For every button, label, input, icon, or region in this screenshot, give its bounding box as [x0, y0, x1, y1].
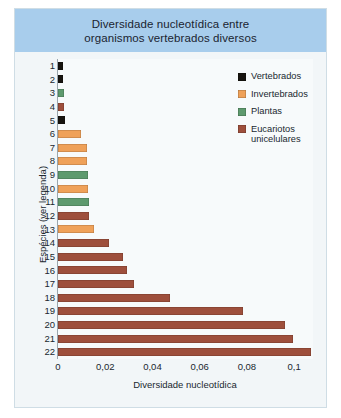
legend-item-0[interactable]: Vertebrados — [238, 71, 326, 82]
bar-row — [58, 264, 313, 278]
page-title: Diversidade nucleotídica entre organismo… — [74, 17, 266, 45]
bar-species-20 — [58, 321, 285, 329]
legend-swatch-icon — [238, 73, 246, 81]
bar-species-8 — [58, 157, 87, 165]
bar-species-10 — [58, 185, 88, 193]
chart-figure: Diversidade nucleotídica entre organismo… — [14, 8, 327, 408]
bar-row — [58, 223, 313, 237]
bar-species-22 — [58, 348, 311, 356]
bar-species-4 — [58, 103, 64, 111]
bar-species-16 — [58, 266, 127, 274]
y-tick-label-22: 22 — [35, 345, 55, 359]
x-axis-tick-labels: 00,020,040,060,080,1 — [57, 361, 313, 377]
bar-species-21 — [58, 335, 293, 343]
bar-species-3 — [58, 89, 64, 97]
legend-swatch-icon — [238, 90, 246, 98]
y-tick-label-11: 11 — [35, 195, 55, 209]
bar-row — [58, 195, 313, 209]
bar-row — [58, 291, 313, 305]
y-axis-tick-labels: 12345678910111213141516171819202122 — [35, 59, 55, 359]
x-tick-label-5: 0,1 — [288, 361, 301, 372]
bar-row — [58, 345, 313, 359]
y-tick-label-5: 5 — [35, 114, 55, 128]
y-tick-label-10: 10 — [35, 182, 55, 196]
y-tick-label-12: 12 — [35, 209, 55, 223]
legend-swatch-icon — [238, 125, 246, 133]
bar-row — [58, 182, 313, 196]
y-tick-label-20: 20 — [35, 318, 55, 332]
x-tick-label-4: 0,08 — [238, 361, 257, 372]
legend-item-1[interactable]: Invertebrados — [238, 89, 326, 100]
y-tick-label-2: 2 — [35, 73, 55, 87]
y-tick-label-19: 19 — [35, 304, 55, 318]
y-tick-label-15: 15 — [35, 250, 55, 264]
chart-title-band: Diversidade nucleotídica entre organismo… — [15, 9, 326, 52]
y-tick-label-17: 17 — [35, 277, 55, 291]
bar-species-7 — [58, 144, 87, 152]
x-tick-label-0: 0 — [55, 361, 60, 372]
legend-item-3[interactable]: Eucariotos unicelulares — [238, 124, 326, 145]
y-tick-label-13: 13 — [35, 223, 55, 237]
bar-species-2 — [58, 75, 63, 83]
bar-row — [58, 168, 313, 182]
bar-species-19 — [58, 307, 243, 315]
y-tick-label-21: 21 — [35, 332, 55, 346]
y-tick-label-8: 8 — [35, 154, 55, 168]
bar-species-6 — [58, 130, 81, 138]
y-tick-label-3: 3 — [35, 86, 55, 100]
x-tick-label-3: 0,06 — [190, 361, 209, 372]
y-tick-label-4: 4 — [35, 100, 55, 114]
x-tick-label-1: 0,02 — [96, 361, 115, 372]
bar-row — [58, 154, 313, 168]
bar-species-1 — [58, 62, 63, 70]
bar-row — [58, 318, 313, 332]
bar-species-12 — [58, 212, 89, 220]
legend-item-2[interactable]: Plantas — [238, 106, 326, 117]
bar-row — [58, 250, 313, 264]
legend-swatch-icon — [238, 108, 246, 116]
bar-row — [58, 332, 313, 346]
x-tick-label-2: 0,04 — [143, 361, 162, 372]
y-tick-label-9: 9 — [35, 168, 55, 182]
bar-species-11 — [58, 198, 89, 206]
bar-row — [58, 236, 313, 250]
bar-species-18 — [58, 294, 170, 302]
bar-row — [58, 209, 313, 223]
y-tick-label-1: 1 — [35, 59, 55, 73]
legend-label: Eucariotos unicelulares — [251, 124, 301, 145]
y-tick-label-14: 14 — [35, 236, 55, 250]
x-axis-title: Diversidade nucleotídica — [57, 379, 313, 390]
bar-species-15 — [58, 253, 123, 261]
y-tick-label-18: 18 — [35, 291, 55, 305]
legend-label: Vertebrados — [251, 71, 301, 82]
legend-label: Plantas — [251, 106, 282, 117]
chart-legend: VertebradosInvertebradosPlantasEucarioto… — [238, 71, 326, 152]
y-tick-label-16: 16 — [35, 264, 55, 278]
bar-species-5 — [58, 116, 65, 124]
bar-row — [58, 304, 313, 318]
bar-species-9 — [58, 171, 88, 179]
y-tick-label-6: 6 — [35, 127, 55, 141]
bar-species-14 — [58, 239, 109, 247]
legend-label: Invertebrados — [251, 89, 308, 100]
bar-species-17 — [58, 280, 134, 288]
y-tick-label-7: 7 — [35, 141, 55, 155]
bar-row — [58, 277, 313, 291]
bar-species-13 — [58, 225, 94, 233]
